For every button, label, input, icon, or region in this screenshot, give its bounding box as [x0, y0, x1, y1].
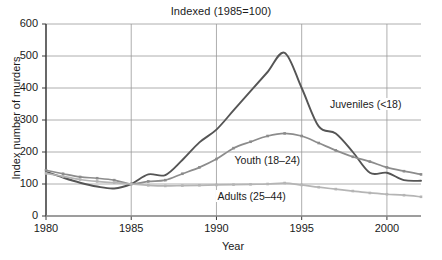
data-point-marker [96, 177, 99, 180]
data-point-marker [232, 147, 235, 150]
x-tick-label: 2000 [364, 223, 410, 234]
y-tick-label: 400 [2, 82, 38, 93]
data-point-marker [369, 160, 372, 163]
data-point-marker [113, 179, 116, 182]
y-tick-label: 600 [2, 18, 38, 29]
data-point-marker [386, 166, 389, 169]
series-line [46, 52, 421, 188]
chart-container: Indexed (1985=100) Index number of murde… [0, 0, 442, 260]
data-point-marker [198, 184, 201, 187]
data-point-marker [181, 172, 184, 175]
data-point-marker [317, 186, 320, 189]
y-tick-label: 200 [2, 146, 38, 157]
data-point-marker [62, 175, 65, 178]
data-point-marker [266, 135, 269, 138]
data-point-marker [62, 172, 65, 175]
data-point-marker [45, 169, 48, 172]
x-tick-label: 1985 [108, 223, 154, 234]
data-point-marker [300, 184, 303, 187]
data-point-marker [249, 140, 252, 143]
data-point-marker [403, 170, 406, 173]
data-point-marker [403, 194, 406, 197]
data-point-marker [334, 149, 337, 152]
data-point-marker [232, 183, 235, 186]
data-point-marker [283, 132, 286, 135]
data-point-marker [198, 166, 201, 169]
series-label-2: Youth (18–24) [234, 154, 302, 166]
data-point-marker [352, 156, 355, 159]
x-axis-label: Year [45, 240, 421, 252]
series-label-3: Adults (25–44) [216, 190, 286, 202]
data-point-marker [96, 180, 99, 183]
data-point-marker [266, 183, 269, 186]
data-point-marker [283, 182, 286, 185]
series-1 [46, 52, 421, 188]
data-point-marker [352, 190, 355, 193]
data-point-marker [300, 135, 303, 138]
chart-plot-area [0, 0, 442, 260]
data-point-marker [215, 184, 218, 187]
y-tick-label: 100 [2, 178, 38, 189]
x-tick-label: 1995 [279, 223, 325, 234]
data-point-marker [45, 172, 48, 175]
data-point-marker [369, 192, 372, 195]
data-point-marker [164, 185, 167, 188]
data-series [45, 52, 423, 198]
data-point-marker [317, 142, 320, 145]
data-point-marker [113, 181, 116, 184]
data-point-marker [420, 173, 423, 176]
y-tick-label: 500 [2, 50, 38, 61]
data-point-marker [79, 178, 82, 181]
data-point-marker [79, 176, 82, 179]
data-point-marker [164, 179, 167, 182]
data-point-marker [181, 184, 184, 187]
series-label-1: Juveniles (<18) [329, 98, 403, 110]
data-point-marker [130, 183, 133, 186]
data-point-marker [386, 193, 389, 196]
y-tick-label: 300 [2, 114, 38, 125]
data-point-marker [147, 184, 150, 187]
x-tick-label: 1980 [23, 223, 69, 234]
data-point-marker [420, 196, 423, 199]
data-point-marker [334, 188, 337, 191]
data-point-marker [249, 183, 252, 186]
chart-title: Indexed (1985=100) [0, 5, 442, 17]
x-tick-label: 1990 [193, 223, 239, 234]
data-point-marker [147, 180, 150, 183]
data-point-marker [215, 158, 218, 161]
y-tick-label: 0 [2, 210, 38, 221]
